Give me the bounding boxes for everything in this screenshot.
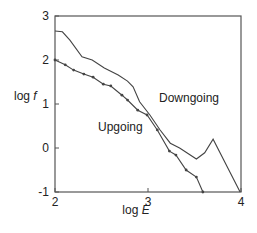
data-point-marker bbox=[54, 59, 57, 62]
y-tick-label: 2 bbox=[42, 53, 49, 67]
data-point-marker bbox=[102, 83, 105, 86]
data-point-marker bbox=[185, 169, 188, 172]
data-point-marker bbox=[168, 150, 171, 153]
y-tick-label: 1 bbox=[42, 97, 49, 111]
data-point-marker bbox=[64, 63, 67, 66]
data-point-marker bbox=[146, 114, 149, 117]
data-point-marker bbox=[72, 69, 75, 72]
data-point-marker bbox=[201, 191, 204, 194]
y-tick-label: -1 bbox=[38, 185, 49, 199]
data-series bbox=[54, 31, 241, 193]
x-axis-label: log E bbox=[122, 203, 150, 217]
upgoing-annotation: Upgoing bbox=[98, 120, 143, 134]
data-point-marker bbox=[126, 99, 129, 102]
downgoing-annotation: Downgoing bbox=[159, 91, 219, 105]
y-tick-label: 3 bbox=[42, 9, 49, 23]
y-tick-label: 0 bbox=[42, 141, 49, 155]
data-point-marker bbox=[109, 85, 112, 88]
y-axis-label: log f bbox=[14, 89, 38, 103]
downgoing-line bbox=[55, 31, 240, 192]
x-tick-label: 4 bbox=[238, 195, 245, 209]
data-point-marker bbox=[136, 109, 139, 112]
chart-figure: -10123234 log f log E Downgoing Upgoing bbox=[0, 0, 257, 233]
data-point-marker bbox=[92, 76, 95, 79]
data-point-marker bbox=[82, 73, 85, 76]
x-tick-label: 2 bbox=[52, 195, 59, 209]
data-point-marker bbox=[121, 94, 124, 97]
data-point-marker bbox=[156, 129, 159, 132]
data-point-marker bbox=[175, 154, 178, 157]
data-point-marker bbox=[195, 176, 198, 179]
